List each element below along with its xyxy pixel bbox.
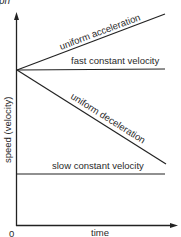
y-axis-arrow-icon	[14, 12, 19, 20]
label-fast-constant-velocity: fast constant velocity	[71, 55, 159, 66]
x-axis-label: time	[91, 227, 109, 237]
label-uniform-acceleration: uniform acceleration	[58, 11, 142, 52]
y-axis-label: speed (velocity)	[2, 96, 13, 163]
speed-time-diagram: ph uniform acceleration fast constant ve…	[0, 0, 181, 237]
line-uniform-deceleration	[17, 70, 166, 164]
x-axis-arrow-icon	[170, 223, 178, 228]
origin-label: 0	[9, 228, 14, 237]
label-slow-constant-velocity: slow constant velocity	[52, 160, 144, 171]
line-fast-constant-velocity	[17, 69, 165, 70]
cropped-title: ph	[0, 0, 11, 6]
label-uniform-deceleration: uniform deceleration	[69, 90, 148, 145]
